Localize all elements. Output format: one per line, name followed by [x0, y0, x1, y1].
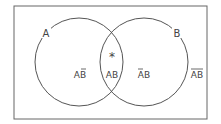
venn-diagram: A B * AB AB AB AB — [0, 0, 221, 124]
region-not-a-b: AB — [138, 70, 150, 80]
region-not-a-not-b: AB — [191, 70, 203, 80]
set-a-label: A — [43, 28, 50, 39]
set-b-label: B — [174, 28, 181, 39]
intersection-marker: * — [109, 50, 115, 64]
region-a-not-b: AB — [74, 70, 86, 80]
region-a-and-b: AB — [106, 70, 118, 80]
